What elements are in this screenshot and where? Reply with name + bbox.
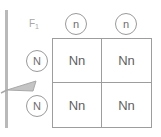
left-allele-label-0: N — [33, 56, 41, 67]
top-allele-label-1: n — [123, 19, 129, 30]
punnett-cell-0-0: Nn — [53, 39, 102, 83]
punnett-square-diagram: F1 n n N N Nn Nn Nn Nn — [0, 0, 161, 137]
left-allele-circle-0: N — [26, 50, 48, 72]
f1-label-subscript: 1 — [35, 23, 39, 30]
left-guide-rail — [5, 10, 8, 128]
f1-generation-label: F1 — [29, 19, 39, 30]
punnett-cell-0-1: Nn — [102, 39, 151, 83]
punnett-cell-1-1: Nn — [102, 83, 151, 127]
punnett-cell-1-0: Nn — [53, 83, 102, 127]
left-allele-circle-1: N — [26, 95, 48, 117]
top-allele-label-0: n — [73, 19, 79, 30]
top-allele-circle-0: n — [65, 13, 87, 35]
top-allele-circle-1: n — [115, 13, 137, 35]
punnett-grid: Nn Nn Nn Nn — [52, 38, 152, 128]
left-allele-label-1: N — [33, 101, 41, 112]
